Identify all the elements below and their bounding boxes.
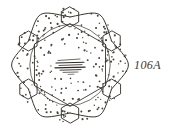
center-inscription: [55, 59, 85, 74]
plate-canvas: 106A: [0, 0, 180, 133]
plate-number-label: 106A: [134, 58, 180, 73]
